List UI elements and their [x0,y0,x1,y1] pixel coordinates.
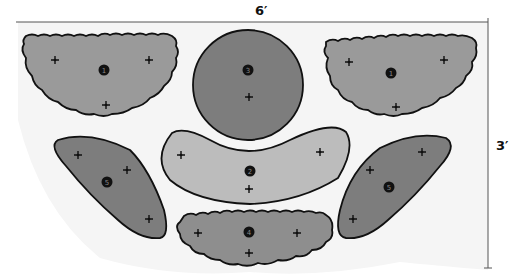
width-dimension-label: 6′ [255,3,267,18]
piece-number: 5 [105,179,109,187]
piece-3-center: 3 [193,30,303,140]
height-dimension-label: 3′ [496,138,508,153]
piece-number: 2 [248,168,252,176]
garden-layout-diagram: 1 3 1 5 2 5 [0,0,512,278]
piece-number: 1 [389,70,393,78]
piece-number: 3 [246,67,250,75]
piece-number: 1 [102,67,106,75]
piece-number: 4 [247,229,252,237]
piece-number: 5 [387,184,391,192]
